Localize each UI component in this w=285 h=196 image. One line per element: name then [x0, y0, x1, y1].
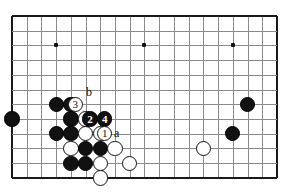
grid-line-horizontal: [12, 15, 277, 17]
stone-black[interactable]: [63, 111, 78, 126]
stone-black[interactable]: [225, 126, 240, 141]
star-point: [54, 43, 58, 47]
stone-move-number: 2: [83, 112, 96, 125]
grid-line-horizontal: [12, 177, 277, 179]
grid-line-vertical: [11, 16, 13, 178]
stone-move-number: 1: [98, 127, 111, 140]
grid-line-horizontal: [12, 90, 277, 91]
numbered-stone-4[interactable]: 4: [97, 111, 112, 126]
grid-line-vertical: [27, 16, 28, 178]
stone-white[interactable]: [196, 141, 211, 156]
stone-move-number: 4: [98, 112, 111, 125]
point-marker-a: a: [114, 127, 119, 139]
stone-black[interactable]: [78, 156, 93, 171]
point-marker-b: b: [86, 86, 92, 98]
stone-white[interactable]: [122, 156, 137, 171]
grid-line-vertical: [144, 16, 145, 178]
grid-line-horizontal: [12, 119, 277, 120]
stone-black[interactable]: [78, 141, 93, 156]
stone-black[interactable]: [4, 111, 19, 126]
stone-black[interactable]: [63, 156, 78, 171]
stone-move-number: 3: [69, 98, 82, 111]
stone-white[interactable]: [93, 170, 108, 185]
grid-line-vertical: [159, 16, 160, 178]
numbered-stone-2[interactable]: 2: [82, 111, 97, 126]
star-point: [231, 43, 235, 47]
grid-line-vertical: [174, 16, 175, 178]
stone-white[interactable]: [93, 156, 108, 171]
grid-line-vertical: [130, 16, 131, 178]
grid-line-vertical: [189, 16, 190, 178]
stone-black[interactable]: [240, 97, 255, 112]
stone-black[interactable]: [49, 126, 64, 141]
grid-line-horizontal: [12, 31, 277, 32]
stone-black[interactable]: [63, 126, 78, 141]
stone-white[interactable]: [107, 141, 122, 156]
stone-white[interactable]: [63, 141, 78, 156]
stone-black[interactable]: [49, 97, 64, 112]
numbered-stone-3[interactable]: 3: [68, 97, 83, 112]
grid-line-horizontal: [12, 75, 277, 76]
numbered-stone-1[interactable]: 1: [97, 126, 112, 141]
stone-white[interactable]: [78, 126, 93, 141]
grid-line-vertical: [233, 16, 234, 178]
grid-line-vertical: [218, 16, 219, 178]
grid-line-horizontal: [12, 163, 277, 164]
go-board-grid: 3241ba: [0, 0, 285, 196]
grid-line-horizontal: [12, 148, 277, 149]
grid-line-vertical: [262, 16, 263, 178]
grid-line-horizontal: [12, 60, 277, 61]
go-diagram: 3241ba: [0, 0, 285, 196]
grid-line-vertical: [276, 16, 278, 178]
grid-line-vertical: [41, 16, 42, 178]
star-point: [142, 43, 146, 47]
stone-black[interactable]: [93, 141, 108, 156]
